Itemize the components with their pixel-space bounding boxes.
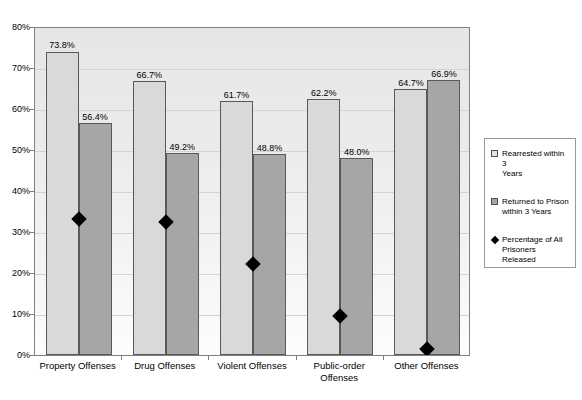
y-tick-label: 30% <box>0 228 30 237</box>
y-tick-label: 60% <box>0 105 30 114</box>
bar-value-label: 61.7% <box>214 90 259 100</box>
bar-rearrested <box>220 101 253 355</box>
bar-rearrested <box>394 89 427 355</box>
x-tick-mark <box>208 355 209 360</box>
bar-rearrested <box>46 52 79 356</box>
diamond-marker-icon <box>491 236 499 244</box>
y-tick-label: 20% <box>0 269 30 278</box>
x-axis: Property OffensesDrug OffensesViolent Of… <box>34 360 470 398</box>
bar-returned <box>427 80 460 355</box>
x-tick-label: Public-orderOffenses <box>296 360 383 384</box>
x-tick-label-line2: Offenses <box>320 372 358 383</box>
x-tick-label-line1: Other Offenses <box>394 360 458 371</box>
x-tick-label: Violent Offenses <box>208 360 295 372</box>
legend-label-line2: Prisoners Released <box>502 245 536 264</box>
legend-label-line2: within 3 Years <box>502 207 551 216</box>
bar-returned <box>79 123 112 355</box>
legend-item-returned: Returned to Prison within 3 Years <box>491 197 570 217</box>
bar-value-label: 62.2% <box>301 88 346 98</box>
legend-label-line1: Percentage of All <box>502 235 562 244</box>
light-square-swatch-icon <box>491 150 498 157</box>
x-tick-mark <box>296 355 297 360</box>
bar-returned <box>253 154 286 355</box>
legend-item-percentage-released: Percentage of All Prisoners Released <box>491 235 570 265</box>
legend: Rearrested within 3 Years Returned to Pr… <box>484 138 576 268</box>
bar-value-label: 73.8% <box>40 40 85 50</box>
legend-label-line2: Years <box>502 169 522 178</box>
bar-value-label: 56.4% <box>73 112 118 122</box>
bar-value-label: 66.9% <box>421 69 466 79</box>
recidivism-bar-chart: 80% 70% 60% 50% 40% 30% 20% 10% 0% 73.8%… <box>0 0 582 400</box>
y-tick-label: 70% <box>0 64 30 73</box>
legend-label-line1: Rearrested within 3 <box>502 149 564 168</box>
y-tick-label: 50% <box>0 146 30 155</box>
y-tick-label: 40% <box>0 187 30 196</box>
y-tick-label: 10% <box>0 310 30 319</box>
x-tick-label-line1: Violent Offenses <box>217 360 286 371</box>
dark-square-swatch-icon <box>491 198 498 205</box>
x-tick-label-line1: Drug Offenses <box>134 360 195 371</box>
x-tick-label: Other Offenses <box>383 360 470 372</box>
x-tick-label-line1: Property Offenses <box>39 360 115 371</box>
bar-value-label: 48.8% <box>247 143 292 153</box>
plot-area: 73.8%56.4%66.7%49.2%61.7%48.8%62.2%48.0%… <box>34 27 470 356</box>
y-axis: 80% 70% 60% 50% 40% 30% 20% 10% 0% <box>0 27 30 356</box>
x-tick-mark <box>121 355 122 360</box>
bar-returned <box>340 158 373 355</box>
bar-value-label: 49.2% <box>160 142 205 152</box>
y-tick-label: 0% <box>0 351 30 360</box>
bar-value-label: 66.7% <box>127 70 172 80</box>
x-tick-label: Drug Offenses <box>121 360 208 372</box>
bar-value-label: 48.0% <box>334 147 379 157</box>
x-tick-label: Property Offenses <box>34 360 121 372</box>
bar-returned <box>166 153 199 355</box>
y-tick-label: 80% <box>0 23 30 32</box>
x-tick-mark <box>383 355 384 360</box>
legend-item-rearrested: Rearrested within 3 Years <box>491 149 570 179</box>
legend-label-line1: Returned to Prison <box>502 197 569 206</box>
gridline <box>35 69 469 70</box>
x-tick-label-line1: Public-order <box>314 360 365 371</box>
